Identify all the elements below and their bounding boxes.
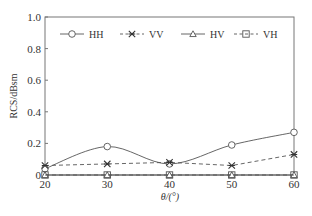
y-tick-label: 0.4	[27, 106, 41, 118]
data-series	[42, 129, 298, 178]
legend-item-vv: VV	[120, 29, 164, 40]
x-axis-label: θ/(°)	[161, 191, 180, 203]
star-marker-icon	[104, 161, 110, 167]
series-hh	[42, 129, 298, 172]
legend-item-hh: HH	[60, 29, 103, 40]
circle-marker-icon	[228, 142, 235, 149]
y-tick-label: 0.2	[27, 137, 41, 149]
star-marker-icon	[229, 162, 235, 168]
circle-marker-icon	[104, 143, 111, 150]
x-tick-label: 50	[226, 178, 238, 190]
figure-caption-cutoff	[0, 209, 312, 216]
plot-frame	[45, 17, 294, 175]
legend-label: HH	[89, 29, 103, 40]
legend: HHVVHVVH	[60, 29, 277, 40]
plot-border	[45, 17, 294, 175]
x-tick-label: 30	[102, 178, 114, 190]
star-marker-icon	[129, 31, 135, 37]
legend-label: HV	[210, 29, 225, 40]
y-tick-label: 1.0	[27, 11, 41, 23]
legend-label: VH	[263, 29, 277, 40]
x-tick-label: 20	[40, 178, 52, 190]
circle-marker-icon	[69, 31, 76, 38]
y-tick-label: 0.6	[27, 74, 41, 86]
x-tick-label: 40	[164, 178, 176, 190]
circle-marker-icon	[291, 129, 298, 136]
y-axis-label: RCS/dBsm	[8, 73, 19, 118]
x-tick-label: 60	[289, 178, 301, 190]
legend-label: VV	[149, 29, 164, 40]
y-tick-label: 0.8	[27, 43, 41, 55]
legend-item-hv: HV	[181, 29, 225, 40]
rcs-line-chart: 00.20.40.60.81.0 2030405060 HHVVHVVH RCS…	[0, 0, 312, 216]
legend-item-vh: VH	[234, 29, 277, 40]
